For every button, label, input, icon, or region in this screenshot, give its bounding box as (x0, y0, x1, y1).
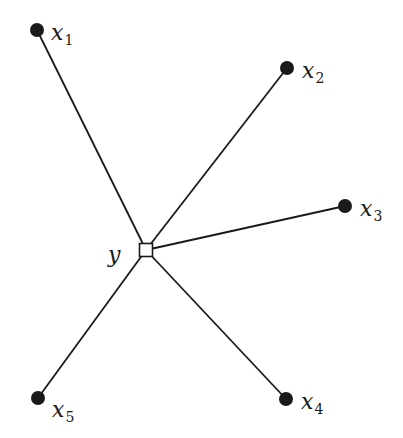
nodes: x1x2x3x4x5 (30, 20, 382, 425)
filled-dot-icon (338, 199, 352, 213)
center-label-y: y (107, 242, 121, 267)
node-x1: x1 (30, 20, 73, 48)
filled-dot-icon (280, 61, 294, 75)
node-label-x2: x2 (302, 58, 324, 86)
edge-y-x4 (146, 250, 286, 399)
filled-dot-icon (30, 23, 44, 37)
node-label-x3: x3 (360, 196, 382, 224)
node-label-x1: x1 (51, 20, 73, 48)
node-x4: x4 (279, 389, 323, 417)
node-label-x5: x5 (52, 397, 74, 425)
node-x2: x2 (280, 58, 324, 86)
node-x3: x3 (338, 196, 382, 224)
node-label-x4: x4 (301, 389, 323, 417)
filled-dot-icon (279, 392, 293, 406)
node-x5: x5 (31, 391, 74, 425)
filled-dot-icon (31, 391, 45, 405)
edges (37, 30, 345, 399)
edge-y-x1 (37, 30, 146, 250)
square-node-icon (140, 244, 153, 257)
star-graph-diagram: x1x2x3x4x5 y (0, 0, 403, 438)
center-node-y: y (107, 242, 153, 267)
edge-y-x5 (38, 250, 146, 398)
